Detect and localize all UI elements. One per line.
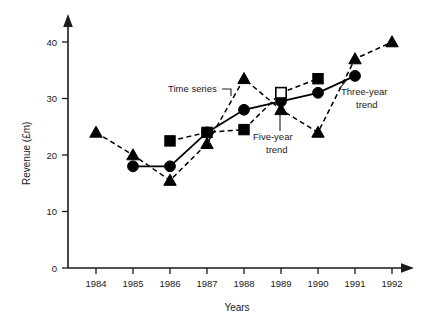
datapoint-time-series-1988 [238, 73, 250, 84]
datapoint-three-year-trend-1991 [350, 71, 361, 82]
y-axis-arrowhead [63, 14, 73, 27]
revenue-trend-line-chart: 0 10 20 30 40 Revenue (£m) 1984 1985 198… [0, 0, 423, 323]
y-axis-title: Revenue (£m) [21, 122, 32, 185]
axes [63, 14, 414, 273]
y-ticklabel-20: 20 [46, 150, 57, 161]
datapoint-five-year-trend-1990 [313, 74, 323, 84]
datapoint-five-year-trend-1988 [239, 124, 249, 134]
datapoint-three-year-trend-1985 [128, 161, 139, 172]
x-axis-title: Years [224, 302, 249, 313]
chart-container: 0 10 20 30 40 Revenue (£m) 1984 1985 198… [0, 0, 423, 323]
x-ticklabel-1989: 1989 [270, 278, 291, 289]
annotation-time-series-label: Time series [168, 83, 217, 94]
datapoint-five-year-trend-1987 [202, 127, 212, 137]
datapoint-five-year-trend-1986 [165, 136, 175, 146]
datapoint-time-series-1985 [127, 149, 139, 160]
datapoint-time-series-1992 [386, 36, 398, 47]
datapoint-three-year-trend-1990 [313, 87, 324, 98]
annotation-time-series-leader [222, 89, 231, 96]
datapoint-five-year-trend-1989 [276, 88, 286, 98]
datapoint-time-series-1991 [349, 53, 361, 64]
datapoint-time-series-1990 [312, 126, 324, 137]
annotation-three-year-trend-label-line2: trend [356, 99, 378, 110]
y-axis-ticks: 0 10 20 30 40 [46, 37, 68, 274]
datapoint-time-series-1984 [90, 126, 102, 137]
y-ticklabel-0: 0 [52, 263, 57, 274]
x-axis-arrowhead [401, 263, 414, 273]
y-ticklabel-10: 10 [46, 206, 57, 217]
x-ticklabel-1984: 1984 [85, 278, 106, 289]
annotation-three-year-trend: Three-year trend [339, 81, 387, 110]
y-ticklabel-40: 40 [46, 37, 57, 48]
annotation-three-year-trend-label-line1: Three-year [341, 86, 387, 97]
annotation-five-year-trend: Five-year trend [253, 112, 293, 155]
datapoint-time-series-1987 [201, 138, 213, 149]
x-ticklabel-1990: 1990 [307, 278, 328, 289]
x-ticklabel-1986: 1986 [159, 278, 180, 289]
annotation-five-year-trend-label-line1: Five-year [253, 131, 293, 142]
y-ticklabel-30: 30 [46, 93, 57, 104]
annotation-five-year-trend-label-line2: trend [266, 144, 288, 155]
x-ticklabel-1988: 1988 [233, 278, 254, 289]
x-ticklabel-1987: 1987 [196, 278, 217, 289]
x-ticklabel-1985: 1985 [122, 278, 143, 289]
datapoint-three-year-trend-1986 [165, 161, 176, 172]
series-layer [90, 36, 398, 186]
x-ticklabel-1992: 1992 [381, 278, 402, 289]
datapoint-three-year-trend-1988 [239, 104, 250, 115]
x-ticklabel-1991: 1991 [344, 278, 365, 289]
annotation-time-series: Time series [168, 83, 231, 96]
x-axis-ticks: 1984 1985 1986 1987 1988 1989 1990 1991 … [85, 268, 402, 289]
